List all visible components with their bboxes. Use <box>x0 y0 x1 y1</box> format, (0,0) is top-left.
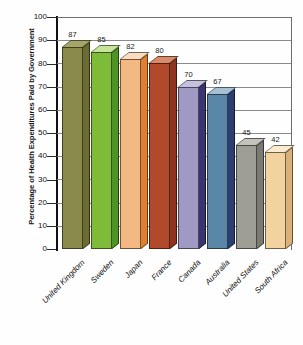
y-tick-label: 40 <box>15 152 47 160</box>
y-tick-label: 100 <box>15 13 47 21</box>
bar-side-face <box>112 46 119 249</box>
bar-chart: Percentage of Health Expenditures Paid b… <box>0 0 303 345</box>
bar-japan: 82 <box>120 59 141 249</box>
y-tick-label: 90 <box>15 36 47 44</box>
y-tick-label: 50 <box>15 129 47 137</box>
bar-value-label: 70 <box>178 70 199 79</box>
bar-canada: 70 <box>178 87 199 249</box>
bar-australia: 67 <box>207 94 228 249</box>
bar-front-face <box>207 94 228 249</box>
y-tick <box>47 133 56 134</box>
bar-front-face <box>120 59 141 249</box>
bar-value-label: 42 <box>265 135 286 144</box>
bar-value-label: 67 <box>207 77 228 86</box>
plot-area: 87 85 82 80 70 <box>57 17 291 249</box>
y-tick <box>47 17 56 18</box>
bar-front-face <box>149 63 170 249</box>
bar-side-face <box>83 42 90 249</box>
gridline-100 <box>57 17 291 18</box>
bar-side-face <box>228 88 235 249</box>
bar-front-face <box>236 145 257 249</box>
y-tick <box>47 203 56 204</box>
bar-france: 80 <box>149 63 170 249</box>
y-axis-title: Percentage of Health Expenditures Paid b… <box>27 12 36 242</box>
y-tick-label: 20 <box>15 199 47 207</box>
bar-front-face <box>91 52 112 249</box>
y-tick <box>47 249 56 250</box>
y-tick <box>47 180 56 181</box>
bar-united-states: 45 <box>236 145 257 249</box>
bar-side-face <box>257 139 264 249</box>
y-tick <box>47 40 56 41</box>
y-tick <box>47 64 56 65</box>
bar-value-label: 80 <box>149 46 170 55</box>
bar-side-face <box>286 146 293 249</box>
y-tick-label: 70 <box>15 83 47 91</box>
y-tick <box>47 156 56 157</box>
bar-front-face <box>178 87 199 249</box>
bar-south-africa: 42 <box>265 152 286 249</box>
bar-value-label: 87 <box>62 30 83 39</box>
y-tick-label: 0 <box>15 245 47 253</box>
bar-sweden: 85 <box>91 52 112 249</box>
bar-side-face <box>199 81 206 249</box>
y-tick-label: 30 <box>15 176 47 184</box>
y-tick-label: 80 <box>15 60 47 68</box>
bar-united-kingdom: 87 <box>62 47 83 249</box>
bar-value-label: 82 <box>120 42 141 51</box>
bar-value-label: 85 <box>91 35 112 44</box>
y-tick <box>47 87 56 88</box>
y-tick-label: 60 <box>15 106 47 114</box>
y-tick-label: 10 <box>15 222 47 230</box>
bar-value-label: 45 <box>236 128 257 137</box>
bar-side-face <box>141 53 148 249</box>
bar-front-face <box>62 47 83 249</box>
y-tick <box>47 110 56 111</box>
y-tick <box>47 226 56 227</box>
bar-front-face <box>265 152 286 249</box>
bar-side-face <box>170 58 177 249</box>
